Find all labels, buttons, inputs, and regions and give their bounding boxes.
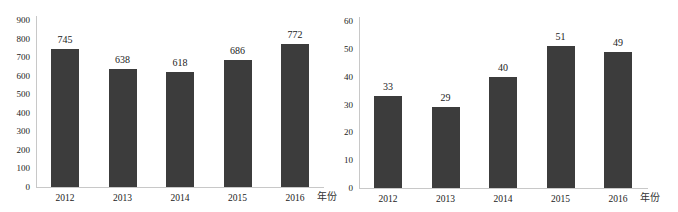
y-axis (359, 17, 360, 188)
y-tick-label: 20 (327, 127, 353, 137)
bar-2013 (432, 107, 460, 188)
y-tick-label: 60 (327, 16, 353, 26)
x-axis (359, 188, 648, 189)
bar-value-label: 33 (368, 82, 408, 92)
bar-2012 (374, 96, 402, 188)
x-tick-label: 2016 (598, 194, 638, 204)
y-tick-label: 10 (327, 155, 353, 165)
bar-2014 (489, 77, 517, 188)
bar-2016 (604, 52, 632, 188)
x-tick-label: 2013 (426, 194, 466, 204)
y-tick-label: 0 (327, 183, 353, 193)
bar-value-label: 49 (598, 38, 638, 48)
chart-right: 6050403020100332012292013402014512015492… (0, 0, 678, 212)
y-tick-label: 50 (327, 44, 353, 54)
y-tick-label: 30 (327, 100, 353, 110)
x-tick-label: 2012 (368, 194, 408, 204)
bar-value-label: 29 (426, 93, 466, 103)
bar-value-label: 40 (483, 63, 523, 73)
bar-value-label: 51 (541, 32, 581, 42)
y-tick-label: 40 (327, 72, 353, 82)
x-tick-label: 2015 (541, 194, 581, 204)
x-tick-label: 2014 (483, 194, 523, 204)
x-axis-unit-label: 年份 (640, 193, 660, 203)
bar-2015 (547, 46, 575, 188)
